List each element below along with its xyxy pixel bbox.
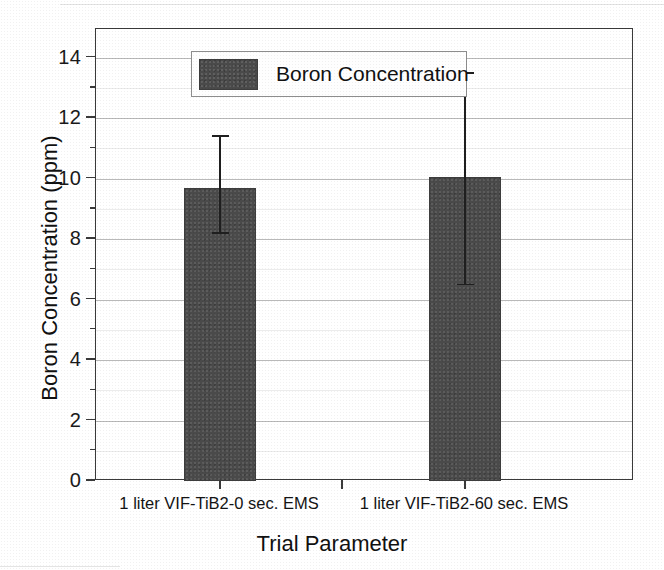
error-bar-cap-lower bbox=[212, 232, 229, 234]
y-tick-label: 10 bbox=[58, 166, 81, 189]
gridline-minor bbox=[96, 330, 632, 331]
x-tick-mark bbox=[219, 480, 221, 489]
gridline-major bbox=[96, 179, 632, 180]
y-tick-label: 6 bbox=[70, 287, 81, 310]
x-axis-title: Trial Parameter bbox=[0, 531, 664, 557]
y-tick-label: 2 bbox=[70, 408, 81, 431]
error-bar-line bbox=[219, 136, 221, 233]
legend-swatch-boron-concentration bbox=[199, 59, 258, 90]
gridline-major bbox=[96, 421, 632, 422]
bar-chart-figure: Boron Concentration (ppm) 02468101214 Bo… bbox=[0, 0, 664, 570]
y-tick-mark bbox=[86, 56, 95, 58]
scan-artifact-top bbox=[60, 4, 664, 5]
gridline-major bbox=[96, 300, 632, 301]
gridline-major bbox=[96, 239, 632, 240]
legend-label: Boron Concentration bbox=[276, 62, 469, 86]
gridline-minor bbox=[96, 148, 632, 149]
x-category-label: 1 liter VIF-TiB2-60 sec. EMS bbox=[360, 494, 568, 513]
y-tick-mark bbox=[86, 116, 95, 118]
plot-area: Boron Concentration bbox=[95, 28, 633, 480]
y-tick-mark bbox=[86, 177, 95, 179]
y-tick-label: 12 bbox=[58, 106, 81, 129]
y-tick-label: 14 bbox=[58, 45, 81, 68]
y-tick-label: 8 bbox=[70, 227, 81, 250]
y-tick-mark bbox=[86, 237, 95, 239]
x-category-label: 1 liter VIF-TiB2-0 sec. EMS bbox=[119, 494, 318, 513]
gridline-minor bbox=[96, 451, 632, 452]
gridline-major bbox=[96, 360, 632, 361]
gridline-minor bbox=[96, 390, 632, 391]
legend: Boron Concentration bbox=[191, 51, 467, 97]
error-bar-cap-upper bbox=[212, 135, 229, 137]
gridline-minor bbox=[96, 269, 632, 270]
y-axis: 02468101214 bbox=[0, 0, 95, 570]
x-tick-mark bbox=[341, 480, 343, 489]
y-tick-mark bbox=[86, 479, 95, 481]
x-tick-mark bbox=[464, 480, 466, 489]
gridline-minor bbox=[96, 209, 632, 210]
y-tick-mark bbox=[86, 419, 95, 421]
error-bar-line bbox=[464, 73, 466, 285]
y-tick-label: 0 bbox=[70, 469, 81, 492]
y-tick-label: 4 bbox=[70, 348, 81, 371]
error-bar-cap-lower bbox=[457, 284, 474, 286]
gridline-major bbox=[96, 118, 632, 119]
y-tick-mark bbox=[86, 358, 95, 360]
y-tick-mark bbox=[86, 298, 95, 300]
